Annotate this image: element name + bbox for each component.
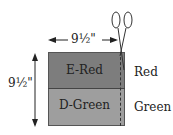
width-dimension-label: 9½" <box>71 32 96 46</box>
dimension-arrows <box>0 0 173 135</box>
height-dimension-label: 9½" <box>8 76 33 90</box>
